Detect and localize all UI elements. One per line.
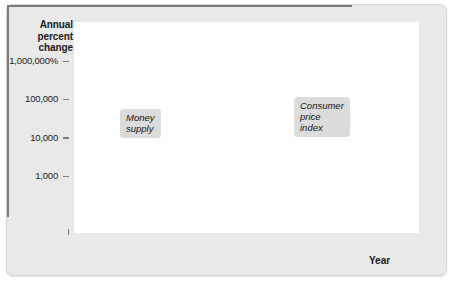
figure-container: Annual percent change Year 1,000,000%100… xyxy=(6,4,447,276)
chart-lines xyxy=(7,5,446,275)
